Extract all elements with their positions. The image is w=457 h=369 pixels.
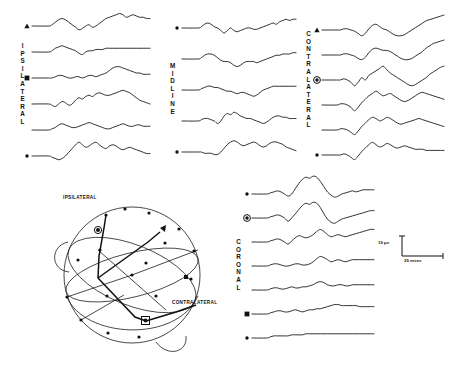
label-letter: L [237, 284, 241, 292]
waveform-trace [32, 67, 150, 79]
waveform-trace [252, 334, 374, 338]
diagram-label-ipsilateral: IPSILATERAL [63, 195, 97, 200]
trace-marker-dot [175, 150, 178, 153]
label-letter: R [236, 253, 241, 261]
ipsilateral-traces [24, 14, 150, 170]
waveform-trace [32, 90, 150, 106]
trace-marker-dot [25, 154, 28, 157]
head-sphere-diagram [36, 192, 236, 364]
electrode-marker-ipsilateral [94, 226, 101, 233]
label-letter: T [307, 53, 311, 61]
contralateral-traces [314, 14, 444, 170]
panel-ipsilateral [24, 14, 150, 170]
electrode-node [154, 294, 157, 297]
label-letter: A [306, 68, 311, 76]
chain-c [98, 250, 166, 310]
label-letter: A [306, 83, 311, 91]
evoked-potential-figure: I P S I L A T E R A L M I D L I N E C O [0, 0, 457, 369]
trace-marker-circled-dot [245, 216, 248, 219]
waveform-trace [252, 229, 374, 244]
chain-a [67, 275, 132, 297]
trace-marker-circled-dot [315, 78, 318, 81]
contralateral-ear [156, 336, 186, 351]
panel-contralateral [314, 14, 444, 170]
electrode-node [147, 211, 150, 214]
label-letter: E [306, 98, 310, 106]
waveform-trace [252, 176, 374, 197]
panel-midline [174, 14, 296, 170]
waveform-trace [322, 91, 444, 111]
chain-b [132, 250, 198, 275]
waveform-trace [252, 257, 374, 267]
waveform-trace [252, 282, 374, 290]
trace-marker-dot [245, 192, 248, 195]
waveform-trace [182, 53, 296, 67]
electrode-node [104, 213, 107, 216]
coronal-traces [244, 180, 374, 362]
electrode-node [144, 261, 147, 264]
label-letter: A [306, 114, 311, 122]
waveform-trace [322, 142, 444, 159]
label-letter: C [306, 30, 311, 38]
electrode-node [76, 258, 79, 261]
waveform-trace [252, 202, 374, 223]
trace-marker-triangle [314, 27, 319, 32]
montage-meridian-left [98, 215, 106, 278]
waveform-trace [322, 40, 444, 60]
label-letter: T [307, 91, 311, 99]
label-letter: O [236, 261, 241, 269]
label-letter: N [306, 45, 311, 53]
waveform-trace [32, 46, 150, 55]
cal-corner-line [402, 236, 443, 256]
waveform-trace [182, 86, 296, 96]
waveform-trace [252, 304, 374, 314]
trace-marker-triangle [24, 23, 29, 28]
electrode-node [79, 318, 82, 321]
label-letter: A [236, 276, 241, 284]
panel-label-contralateral: C O N T R A L A T E R A L [303, 30, 314, 129]
calibration-time-label: 25 msec [404, 258, 421, 263]
montage-line-upper [98, 232, 160, 278]
calibration-amplitude-label: 10 µv [378, 240, 389, 245]
label-letter: L [307, 121, 311, 129]
electrode-node [189, 277, 192, 280]
trace-marker-square [25, 76, 30, 81]
ipsilateral-ear [55, 242, 69, 272]
electrode-square-marker [184, 275, 188, 279]
trace-marker-dot [245, 336, 248, 339]
waveform-trace [322, 117, 444, 134]
waveform-trace [322, 66, 444, 86]
diagram-label-contralateral: CONTRALATERAL [172, 300, 217, 305]
electrode-node [130, 273, 133, 276]
label-letter: R [306, 60, 311, 68]
label-letter: O [306, 38, 311, 46]
electrode-node [106, 331, 109, 334]
electrode-node [65, 295, 68, 298]
waveform-trace [182, 141, 296, 155]
electrode-node [98, 248, 101, 251]
label-letter: L [307, 76, 311, 84]
trace-marker-square [245, 312, 250, 317]
label-letter: R [306, 106, 311, 114]
trace-marker-dot [175, 26, 178, 29]
electrode-node [137, 335, 140, 338]
waveform-trace [32, 14, 150, 30]
waveform-trace [182, 112, 296, 123]
label-letter: C [236, 238, 241, 246]
electrode-node [163, 241, 166, 244]
waveform-trace [32, 123, 150, 131]
waveform-trace [182, 19, 296, 33]
waveform-trace [32, 142, 150, 160]
chain-d [81, 295, 124, 320]
label-letter: N [236, 268, 241, 276]
midline-traces [174, 14, 296, 170]
electrode-node [192, 249, 195, 252]
waveform-trace [322, 15, 444, 36]
electrode-node [177, 227, 180, 230]
label-letter: O [236, 246, 241, 254]
panel-coronal [244, 180, 374, 362]
electrode-node [105, 294, 108, 297]
trace-marker-dot [315, 153, 318, 156]
electrode-node [123, 207, 126, 210]
electrode-triangle-marker [160, 225, 166, 232]
